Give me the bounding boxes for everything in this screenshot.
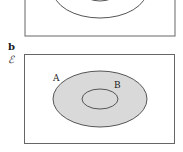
set-b-ellipse-top xyxy=(83,0,117,1)
set-a-label: A xyxy=(52,73,60,83)
panel-a xyxy=(25,0,175,36)
universal-set-symbol: ℰ xyxy=(8,54,15,65)
set-b-label: B xyxy=(114,80,121,90)
set-a-ellipse-top xyxy=(53,0,147,18)
panel-b: b ℰ A B xyxy=(8,41,175,144)
set-b-ellipse xyxy=(82,89,118,109)
venn-diagrams: b ℰ A B xyxy=(0,0,183,152)
panel-label-b: b xyxy=(8,41,15,52)
